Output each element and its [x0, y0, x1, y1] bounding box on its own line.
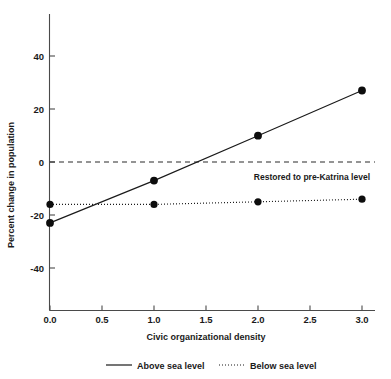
data-point-above-1 [150, 177, 158, 185]
chart-container: 40 20 0 -20 -40 0.0 0.5 1.0 1.5 2.0 2.5 … [0, 0, 391, 379]
x-tick-label-6: 3.0 [355, 314, 368, 325]
chart-background [0, 0, 391, 379]
y-tick-label-neg40: -40 [30, 263, 44, 274]
x-axis-title: Civic organizational density [146, 332, 265, 342]
x-tick-label-1: 0.5 [95, 314, 109, 325]
y-tick-label-neg20: -20 [30, 210, 44, 221]
data-point-below-0 [46, 201, 53, 208]
y-tick-label-0: 0 [39, 157, 44, 168]
data-point-below-1 [150, 201, 157, 208]
legend-label-above: Above sea level [137, 361, 205, 371]
x-tick-label-2: 1.0 [147, 314, 160, 325]
data-point-above-2 [254, 132, 262, 140]
data-point-above-0 [46, 219, 54, 227]
y-tick-label-20: 20 [33, 104, 44, 115]
pre-katrina-annotation: Restored to pre-Katrina level [254, 172, 370, 182]
legend-label-below: Below sea level [250, 361, 317, 371]
data-point-above-3 [358, 87, 366, 95]
x-tick-label-5: 2.5 [303, 314, 317, 325]
population-change-line-chart: 40 20 0 -20 -40 0.0 0.5 1.0 1.5 2.0 2.5 … [0, 0, 391, 379]
x-tick-label-4: 2.0 [251, 314, 264, 325]
data-point-below-3 [358, 196, 365, 203]
y-axis-title: Percent change in population [6, 122, 16, 248]
x-tick-label-0: 0.0 [43, 314, 56, 325]
x-tick-label-3: 1.5 [199, 314, 213, 325]
y-tick-label-40: 40 [33, 51, 44, 62]
data-point-below-2 [254, 198, 261, 205]
